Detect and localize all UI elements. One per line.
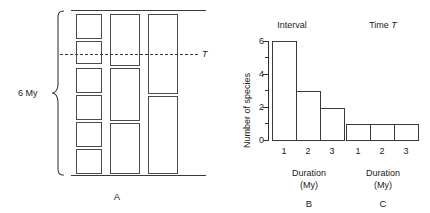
panel-a-range-chart: 6 My T A (0, 0, 215, 213)
x-tick-label: 1 (277, 147, 291, 156)
x-tick-label: 2 (375, 147, 389, 156)
y-tick-major (263, 107, 269, 108)
range-box (110, 68, 140, 121)
x-axis-label-line1: Duration (343, 168, 423, 179)
x-axis-label-line1: Duration (269, 168, 349, 179)
scale-label: 6 My (18, 88, 38, 98)
y-axis-label: Number of species (242, 73, 252, 148)
time-t-dashed-line (60, 54, 198, 55)
range-box (76, 122, 102, 147)
panel-letter-c: C (376, 199, 390, 209)
range-box (76, 68, 102, 93)
chart-title-time-t-symbol: T (391, 20, 397, 30)
y-tick-minor (265, 90, 269, 91)
y-tick-minor (265, 123, 269, 124)
panel-b-interval-histogram: Interval Number of species 6 4 2 0 1 2 3… (236, 0, 346, 213)
range-chart-bottom-rule (71, 175, 206, 176)
scale-brace (51, 10, 65, 176)
x-tick-label: 3 (325, 147, 339, 156)
x-tick-label: 2 (301, 147, 315, 156)
bar-duration-1 (272, 41, 297, 141)
range-box (76, 149, 102, 174)
bar-duration-3 (394, 124, 419, 141)
range-chart-top-rule (71, 10, 206, 11)
panel-c-time-t-histogram: Time T 1 2 3 Duration (My) C (340, 0, 430, 213)
y-tick-minor (265, 57, 269, 58)
range-box (76, 14, 102, 39)
x-tick-label: 1 (351, 147, 365, 156)
time-t-label: T (202, 49, 208, 59)
x-axis-label-line2: (My) (343, 180, 423, 191)
y-tick-major (263, 41, 269, 42)
bar-duration-1 (346, 124, 371, 141)
bar-duration-2 (370, 124, 395, 141)
y-tick-major (263, 74, 269, 75)
range-box (76, 95, 102, 120)
figure-root: 6 My T A Interval Number of species 6 4 … (0, 0, 430, 213)
chart-title-interval: Interval (262, 20, 322, 30)
bar-duration-2 (296, 91, 321, 141)
x-axis-label-line2: (My) (269, 180, 349, 191)
x-tick-label: 3 (399, 147, 413, 156)
panel-letter-a: A (110, 192, 124, 202)
range-box (110, 14, 140, 66)
chart-title-time-t-text: Time (369, 20, 391, 30)
y-axis-spine (268, 41, 269, 141)
y-tick-major (263, 140, 269, 141)
chart-title-time-t: Time T (348, 20, 418, 30)
range-box (148, 96, 178, 174)
panel-letter-b: B (302, 199, 316, 209)
range-box (110, 123, 140, 174)
range-box (76, 41, 102, 64)
